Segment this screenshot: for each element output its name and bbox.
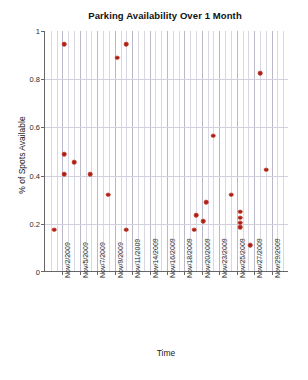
- x-gridline-minor: [57, 31, 58, 271]
- x-axis-tick: [167, 271, 168, 275]
- data-point: [88, 172, 93, 177]
- x-gridline: [219, 31, 220, 271]
- x-axis-tick: [80, 271, 81, 275]
- y-axis-tick: [41, 271, 45, 272]
- x-gridline-minor: [283, 31, 284, 271]
- data-point: [106, 193, 111, 198]
- x-gridline: [254, 31, 255, 271]
- y-axis-tick-label: 0.4: [30, 171, 40, 180]
- data-point: [124, 228, 129, 233]
- x-gridline-minor: [121, 31, 122, 271]
- x-axis-tick-label: Nov/11/2009: [134, 239, 141, 278]
- x-gridline: [150, 31, 151, 271]
- x-gridline-minor: [126, 31, 127, 271]
- x-gridline: [202, 31, 203, 271]
- y-axis-tick: [41, 176, 45, 177]
- x-axis-tick-label: Nov/29/2009: [274, 238, 281, 278]
- data-point: [115, 55, 120, 60]
- x-gridline-minor: [260, 31, 261, 271]
- y-axis-tick-label: 1: [36, 27, 40, 36]
- x-axis-tick-label: Nov/7/2009: [99, 242, 106, 278]
- x-gridline-minor: [231, 31, 232, 271]
- x-gridline-minor: [161, 31, 162, 271]
- x-gridline-minor: [196, 31, 197, 271]
- x-gridline-minor: [68, 31, 69, 271]
- x-axis-title: Time: [44, 348, 288, 358]
- x-gridline-minor: [213, 31, 214, 271]
- x-gridline-minor: [86, 31, 87, 271]
- data-point: [238, 225, 243, 230]
- x-axis-tick-label: Nov/20/2009: [204, 238, 211, 278]
- x-gridline-minor: [225, 31, 226, 271]
- data-point: [194, 213, 199, 218]
- x-axis-tick-label: Nov/23/2009: [221, 238, 228, 278]
- x-axis-tick-label: Nov/5/2009: [82, 242, 89, 278]
- x-gridline-minor: [91, 31, 92, 271]
- data-point: [264, 167, 269, 172]
- data-point: [238, 209, 243, 214]
- x-gridline-minor: [74, 31, 75, 271]
- x-axis-tick-label: Nov/27/2009: [256, 238, 263, 278]
- x-gridline-minor: [103, 31, 104, 271]
- y-gridline: [45, 176, 288, 177]
- x-gridline: [237, 31, 238, 271]
- y-gridline: [45, 127, 288, 128]
- x-axis-tick: [115, 271, 116, 275]
- x-gridline-minor: [190, 31, 191, 271]
- data-point: [62, 172, 67, 177]
- x-axis-tick: [202, 271, 203, 275]
- x-gridline: [272, 31, 273, 271]
- y-axis-tick-labels: 00.20.40.60.81: [16, 31, 40, 272]
- data-point: [248, 243, 253, 248]
- x-gridline: [97, 31, 98, 271]
- data-point: [204, 200, 209, 205]
- x-gridline-minor: [109, 31, 110, 271]
- x-axis-tick-label: Nov/16/2009: [169, 238, 176, 278]
- x-axis-tick: [254, 271, 255, 275]
- plot-area: [44, 31, 288, 272]
- x-axis-tick-label: Nov/14/2009: [152, 238, 159, 278]
- data-point: [192, 228, 197, 233]
- data-point: [62, 42, 67, 47]
- x-gridline: [115, 31, 116, 271]
- x-gridline: [132, 31, 133, 271]
- x-axis-tick-label: Nov/9/2009: [117, 242, 124, 278]
- y-axis-tick-label: 0.2: [30, 219, 40, 228]
- data-point: [124, 42, 129, 47]
- x-gridline-minor: [266, 31, 267, 271]
- y-axis-tick: [41, 31, 45, 32]
- data-point: [201, 219, 206, 224]
- x-gridline: [80, 31, 81, 271]
- x-gridline-minor: [51, 31, 52, 271]
- y-axis-tick: [41, 127, 45, 128]
- x-axis-tick: [272, 271, 273, 275]
- x-gridline-minor: [179, 31, 180, 271]
- x-gridline-minor: [208, 31, 209, 271]
- data-point: [62, 152, 67, 157]
- data-point: [211, 134, 216, 139]
- x-gridline-minor: [277, 31, 278, 271]
- y-axis-tick-label: 0: [36, 268, 40, 277]
- x-axis-tick: [150, 271, 151, 275]
- x-axis-tick-label: Nov/25/2009: [239, 238, 246, 278]
- scatter-chart-figure: Parking Availability Over 1 Month % of S…: [0, 0, 308, 380]
- y-gridline: [45, 224, 288, 225]
- x-axis-tick-label: Nov/18/2009: [186, 238, 193, 278]
- x-gridline-minor: [155, 31, 156, 271]
- x-gridline-minor: [173, 31, 174, 271]
- data-point: [229, 193, 234, 198]
- x-gridline-minor: [138, 31, 139, 271]
- x-gridline: [167, 31, 168, 271]
- y-axis-tick: [41, 79, 45, 80]
- chart-title: Parking Availability Over 1 Month: [40, 10, 290, 21]
- data-point: [52, 228, 57, 233]
- y-axis-tick-label: 0.6: [30, 123, 40, 132]
- x-gridline-minor: [144, 31, 145, 271]
- x-gridline: [184, 31, 185, 271]
- x-axis-tick: [132, 271, 133, 275]
- x-gridline-minor: [248, 31, 249, 271]
- y-axis-tick-label: 0.8: [30, 75, 40, 84]
- y-gridline: [45, 79, 288, 80]
- data-point: [72, 160, 77, 165]
- x-axis-tick-label: Nov/2/2009: [64, 242, 71, 278]
